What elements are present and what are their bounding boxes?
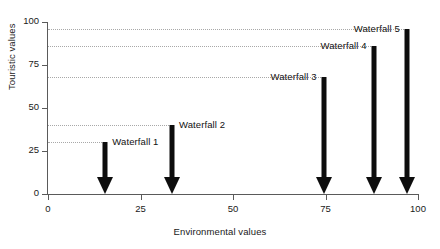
- x-axis-tick: [48, 194, 49, 200]
- x-axis-tick-label: 75: [320, 203, 331, 214]
- data-point-label: Waterfall 3: [271, 71, 317, 82]
- arrow-shaft: [371, 46, 376, 177]
- y-axis-tick: 25: [42, 151, 48, 152]
- arrow-head-icon: [164, 177, 180, 194]
- data-point-label: Waterfall 5: [354, 23, 400, 34]
- plot-area: 02550751000255075100Waterfall 1Waterfall…: [48, 22, 418, 194]
- arrow-shaft: [404, 29, 409, 177]
- x-axis-tick-label: 50: [228, 203, 239, 214]
- y-axis-tick-label: 75: [28, 58, 39, 69]
- chart-container: Touristic values 02550751000255075100Wat…: [0, 0, 440, 249]
- gridline: [48, 142, 102, 144]
- arrow-shaft: [169, 125, 174, 177]
- y-axis-tick: 50: [42, 108, 48, 109]
- y-axis-tick: 100: [42, 22, 48, 23]
- arrow-shaft: [321, 77, 326, 177]
- data-point-label: Waterfall 1: [112, 136, 158, 147]
- arrow-shaft: [103, 142, 108, 177]
- data-point-label: Waterfall 4: [320, 40, 366, 51]
- x-axis-tick: [418, 194, 419, 200]
- y-axis-tick-label: 25: [28, 144, 39, 155]
- x-axis-tick: [141, 194, 142, 200]
- y-axis-tick-label: 100: [23, 15, 39, 26]
- gridline: [48, 125, 169, 127]
- arrow-head-icon: [97, 177, 113, 194]
- gridline: [48, 29, 404, 31]
- x-axis-tick-label: 100: [410, 203, 426, 214]
- y-axis-title: Touristic values: [6, 0, 17, 90]
- y-axis-tick-label: 0: [34, 187, 39, 198]
- arrow-head-icon: [399, 177, 415, 194]
- arrow-head-icon: [366, 177, 382, 194]
- x-axis-tick: [326, 194, 327, 200]
- y-axis-tick-label: 50: [28, 101, 39, 112]
- data-point-label: Waterfall 2: [179, 119, 225, 130]
- y-axis-tick: 75: [42, 65, 48, 66]
- x-axis-tick-label: 0: [45, 203, 50, 214]
- x-axis-tick-label: 25: [135, 203, 146, 214]
- x-axis-title: Environmental values: [0, 226, 440, 237]
- x-axis-tick: [233, 194, 234, 200]
- arrow-head-icon: [316, 177, 332, 194]
